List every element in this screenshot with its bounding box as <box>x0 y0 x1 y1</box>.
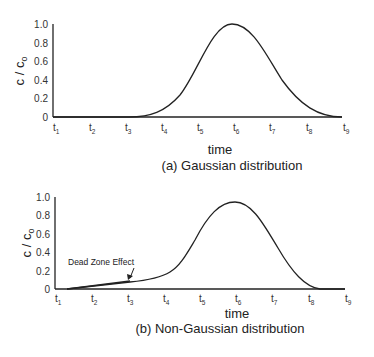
svg-text:t7: t7 <box>271 293 278 306</box>
chart-gaussian: c / co 0 0.2 0.4 0.6 0.8 1.0 t1 t2 t3 t4… <box>12 19 350 173</box>
svg-text:t9: t9 <box>343 122 350 135</box>
non-gaussian-curve <box>67 202 345 289</box>
svg-text:1.0: 1.0 <box>36 192 50 203</box>
svg-text:t5: t5 <box>197 122 204 135</box>
gaussian-curve <box>53 24 342 117</box>
x-tick-labels: t1 t2 t3 t4 t5 t6 t7 t8 t9 <box>55 293 352 306</box>
svg-text:0: 0 <box>44 284 50 295</box>
chart-non-gaussian: c / co 0 0.2 0.4 0.6 0.8 1.0 Dead Zone E… <box>19 192 352 336</box>
svg-text:t4: t4 <box>163 293 170 306</box>
y-axis-label: c / co <box>19 229 36 258</box>
dead-zone-annotation: Dead Zone Effect <box>68 257 135 267</box>
svg-text:1.0: 1.0 <box>34 19 48 30</box>
svg-text:t8: t8 <box>308 293 315 306</box>
svg-text:0.6: 0.6 <box>34 56 48 67</box>
svg-text:0.6: 0.6 <box>36 229 50 240</box>
svg-text:t2: t2 <box>89 122 96 135</box>
svg-text:t1: t1 <box>55 293 62 306</box>
chart-caption: (a) Gaussian distribution <box>162 158 303 173</box>
svg-text:0.4: 0.4 <box>36 247 50 258</box>
svg-text:0.2: 0.2 <box>34 93 48 104</box>
svg-text:0.4: 0.4 <box>34 75 48 86</box>
svg-text:t3: t3 <box>125 122 132 135</box>
svg-text:t6: t6 <box>233 122 240 135</box>
y-tick-labels: 0 0.2 0.4 0.6 0.8 1.0 <box>36 192 50 295</box>
svg-text:t8: t8 <box>306 122 313 135</box>
x-axis-label: time <box>225 306 250 321</box>
chart-caption: (b) Non-Gaussian distribution <box>135 321 304 336</box>
svg-text:t1: t1 <box>53 122 60 135</box>
svg-text:t3: t3 <box>127 293 134 306</box>
dead-zone-segment <box>67 281 130 289</box>
svg-text:0: 0 <box>42 112 48 123</box>
x-tick-labels: t1 t2 t3 t4 t5 t6 t7 t8 t9 <box>53 122 350 135</box>
y-tick-labels: 0 0.2 0.4 0.6 0.8 1.0 <box>34 19 48 123</box>
arrow-icon <box>127 274 133 280</box>
svg-text:t9: t9 <box>345 293 352 306</box>
x-axis-label: time <box>208 142 233 157</box>
svg-text:t6: t6 <box>235 293 242 306</box>
svg-text:t4: t4 <box>161 122 168 135</box>
svg-text:0.8: 0.8 <box>36 210 50 221</box>
y-axis-label: c / co <box>12 57 29 86</box>
svg-text:0.8: 0.8 <box>34 38 48 49</box>
svg-text:t2: t2 <box>91 293 98 306</box>
svg-text:t5: t5 <box>199 293 206 306</box>
svg-text:0.2: 0.2 <box>36 266 50 277</box>
svg-text:t7: t7 <box>269 122 276 135</box>
figure: c / co 0 0.2 0.4 0.6 0.8 1.0 t1 t2 t3 t4… <box>0 0 374 357</box>
